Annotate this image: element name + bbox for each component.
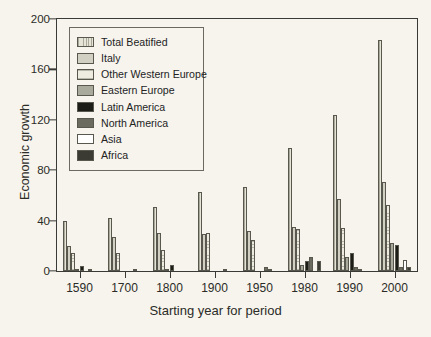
bar-otherwe-1700 (116, 253, 120, 271)
legend-label-asia: Asia (101, 134, 122, 145)
legend-swatch-northam-icon (77, 118, 94, 129)
x-tick-mark-1980 (305, 272, 306, 278)
x-tick-label-2000: 2000 (365, 281, 425, 295)
bar-africa-2000 (407, 267, 411, 271)
x-tick-mark-1590 (80, 272, 81, 278)
y-tick-mark-120 (49, 119, 56, 120)
legend-swatch-asia-icon (77, 134, 94, 145)
y-tick-label-0: 0 (2, 265, 50, 277)
legend-label-italy: Italy (101, 53, 120, 64)
x-tick-mark-1990 (350, 272, 351, 278)
y-tick-mark-200 (49, 18, 56, 19)
bar-asia-1590 (88, 269, 92, 271)
legend-swatch-latam-icon (77, 102, 94, 113)
legend-label-easteu: Eastern Europe (101, 85, 175, 96)
legend: Total BeatifiedItalyOther Western Europe… (69, 27, 204, 171)
y-axis-title: Economic growth (18, 67, 32, 237)
y-tick-mark-160 (49, 69, 56, 70)
legend-item-italy: Italy (77, 50, 197, 66)
legend-swatch-total-icon (77, 37, 94, 48)
legend-label-africa: Africa (101, 150, 128, 161)
y-tick-label-200: 200 (2, 13, 50, 25)
x-tick-mark-1900 (215, 272, 216, 278)
legend-label-northam: North America (101, 118, 168, 129)
x-tick-mark-1950 (260, 272, 261, 278)
legend-item-latam: Latin America (77, 99, 197, 115)
bar-otherwe-1950 (251, 240, 255, 272)
legend-swatch-otherwe-icon (77, 69, 94, 80)
bar-asia-1900 (223, 269, 227, 271)
legend-swatch-easteu-icon (77, 85, 94, 96)
x-tick-mark-1700 (125, 272, 126, 278)
bar-latam-1800 (170, 265, 174, 271)
legend-item-easteu: Eastern Europe (77, 83, 197, 99)
legend-swatch-africa-icon (77, 150, 94, 161)
bar-otherwe-1900 (206, 233, 210, 271)
bar-northam-1980 (309, 257, 313, 271)
legend-item-asia: Asia (77, 131, 197, 147)
bar-asia-1990 (358, 269, 362, 271)
legend-item-total: Total Beatified (77, 34, 197, 50)
legend-item-africa: Africa (77, 147, 197, 163)
y-tick-mark-0 (49, 270, 56, 271)
bar-asia-1950 (268, 269, 272, 271)
legend-label-otherwe: Other Western Europe (101, 69, 207, 80)
legend-item-northam: North America (77, 115, 197, 131)
bar-otherwe-1800 (161, 250, 165, 271)
y-tick-mark-40 (49, 220, 56, 221)
x-tick-mark-2000 (395, 272, 396, 278)
legend-label-latam: Latin America (101, 102, 165, 113)
bar-latam-1590 (80, 266, 84, 271)
legend-swatch-italy-icon (77, 53, 94, 64)
bar-africa-1980 (317, 261, 321, 271)
legend-item-otherwe: Other Western Europe (77, 66, 197, 82)
chart-page: Economic growth 04080120160200 Starting … (0, 0, 431, 337)
y-tick-mark-80 (49, 170, 56, 171)
x-tick-mark-1800 (170, 272, 171, 278)
x-axis-title: Starting year for period (0, 303, 431, 318)
legend-label-total: Total Beatified (101, 37, 168, 48)
bar-asia-1700 (133, 269, 137, 271)
